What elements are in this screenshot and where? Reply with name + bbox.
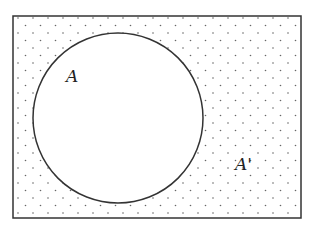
complement-label: A' [233, 154, 252, 174]
set-a-circle [33, 33, 203, 203]
set-a-label: A [64, 66, 78, 86]
venn-diagram: A A' [0, 0, 312, 225]
